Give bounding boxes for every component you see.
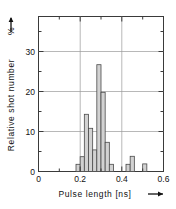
bar — [80, 157, 84, 172]
xtick-label-3: 0.6 — [158, 174, 170, 184]
yaxis-label: Relative shot number — [6, 59, 16, 151]
ytick-label-1: 10 — [26, 127, 36, 137]
ytick-label-2: 20 — [26, 87, 36, 97]
xaxis-label: Pulse length [ns] — [58, 189, 131, 199]
bar — [126, 164, 130, 171]
bar — [130, 156, 134, 171]
histogram-svg: 0 0.2 0.4 0.6 0 10 20 30 Pulse length [n… — [0, 0, 176, 209]
bar — [93, 150, 97, 172]
xaxis-ticks-top — [59, 17, 142, 22]
histogram-bars — [76, 65, 147, 172]
chart-figure: 0 0.2 0.4 0.6 0 10 20 30 Pulse length [n… — [0, 0, 176, 209]
bar — [105, 142, 109, 171]
bar — [143, 164, 147, 172]
bar — [84, 114, 88, 171]
ytick-label-3: 30 — [26, 47, 36, 57]
xtick-label-1: 0.2 — [74, 174, 86, 184]
xtick-label-0: 0 — [36, 174, 41, 184]
bar — [109, 164, 113, 171]
xaxis-arrow-icon — [148, 192, 163, 197]
yaxis-ticks — [39, 32, 44, 172]
bar — [97, 65, 101, 172]
bar — [76, 164, 80, 171]
yaxis-ticks-right — [159, 32, 164, 152]
xtick-label-2: 0.4 — [116, 174, 128, 184]
bar — [101, 92, 105, 171]
ytick-label-0: 0 — [30, 167, 35, 177]
bar — [89, 128, 93, 171]
